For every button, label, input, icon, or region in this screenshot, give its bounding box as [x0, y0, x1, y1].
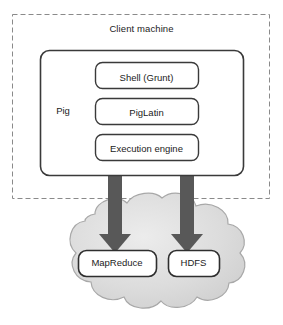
pig-architecture-diagram: Client machine Pig Shell (Grunt) PigLati…	[0, 0, 283, 325]
execution-engine-label: Execution engine	[95, 144, 198, 154]
diagram-canvas	[0, 0, 283, 325]
pig-label: Pig	[46, 106, 80, 116]
hdfs-label: HDFS	[168, 258, 219, 268]
client-machine-label: Client machine	[0, 24, 283, 34]
mapreduce-label: MapReduce	[78, 258, 156, 268]
piglatin-label: PigLatin	[95, 108, 198, 118]
shell-grunt-label: Shell (Grunt)	[95, 73, 198, 83]
